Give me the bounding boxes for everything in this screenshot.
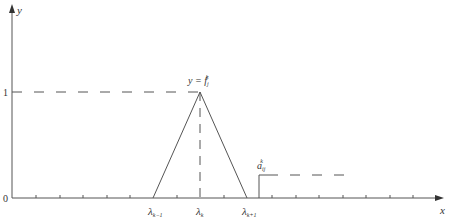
- lambda-k-label: λk: [195, 205, 204, 218]
- step-value-line: [259, 175, 268, 198]
- lambda-k-plus-1-label: λk+1: [241, 205, 256, 218]
- x-axis-label: x: [439, 204, 445, 216]
- peak-label: y = fjk: [187, 74, 209, 87]
- y-axis-arrow-icon: [9, 4, 15, 13]
- step-label: aijk: [257, 158, 266, 172]
- y-axis-label: y: [16, 4, 22, 16]
- lambda-k-minus-1-label: λk−1: [147, 205, 162, 218]
- membership-function-diagram: y x 0 1 y = fjk aijk λk−1: [0, 0, 449, 222]
- origin-label: 0: [3, 193, 8, 204]
- y-tick-1-label: 1: [3, 87, 8, 98]
- x-axis-arrow-icon: [435, 195, 444, 201]
